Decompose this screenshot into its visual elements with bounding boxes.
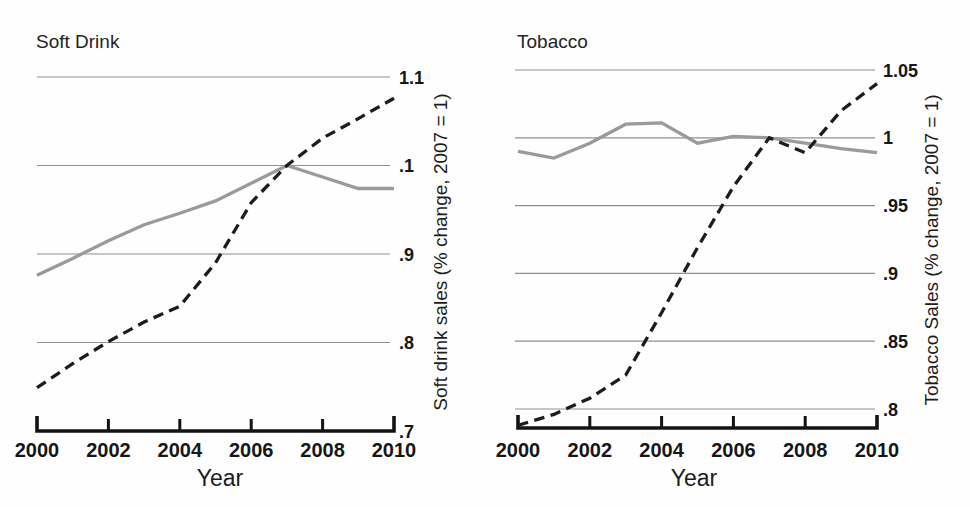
y-axis-label-tobacco: Tobacco Sales (% change, 2007 = 1): [921, 94, 942, 405]
y-tick-label: 1.1: [399, 68, 424, 88]
series-line-tobacco-dashed-black: [518, 84, 877, 426]
y-tick-label: 1.05: [883, 61, 918, 81]
series-line-comparison-solid-gray: [518, 123, 877, 158]
y-tick-label: .9: [399, 245, 414, 265]
y-tick-label: .85: [883, 332, 908, 352]
y-axis-label-soft-drink: Soft drink sales (% change, 2007 = 1): [430, 93, 451, 410]
x-axis-label-soft-drink: Year: [197, 465, 244, 491]
y-tick-label: .1: [399, 156, 414, 176]
x-tick-label: 2010: [855, 439, 900, 461]
y-tick-label: .8: [883, 400, 898, 420]
x-axis: [37, 416, 394, 431]
y-tick-label: 1: [883, 128, 893, 148]
plot-area-tobacco: 1.051.95.9.85.8200020022004200620082010: [496, 61, 918, 462]
x-axis-label-tobacco: Year: [671, 465, 718, 491]
x-tick-label: 2002: [86, 439, 131, 461]
chart-title-tobacco: Tobacco: [517, 31, 588, 52]
x-tick-label: 2002: [568, 439, 613, 461]
tobacco-chart: Tobacco Tobacco Sales (% change, 2007 = …: [485, 0, 970, 507]
y-tick-label: .95: [883, 196, 908, 216]
soft-drink-chart: Soft Drink Soft drink sales (% change, 2…: [0, 0, 485, 507]
x-tick-label: 2004: [158, 439, 203, 461]
x-tick-label: 2004: [639, 439, 684, 461]
x-tick-label: 2000: [15, 439, 60, 461]
chart-title-soft-drink: Soft Drink: [36, 31, 120, 52]
two-panel-line-figure: Soft Drink Soft drink sales (% change, 2…: [0, 0, 970, 507]
series-line-comparison-solid-gray: [37, 166, 394, 276]
plot-area-soft-drink: 1.1.1.9.8.7200020022004200620082010: [15, 68, 424, 462]
y-tick-label: .8: [399, 333, 414, 353]
x-tick-label: 2008: [300, 439, 345, 461]
x-tick-label: 2000: [496, 439, 541, 461]
x-tick-label: 2010: [372, 439, 417, 461]
x-tick-label: 2008: [783, 439, 828, 461]
y-tick-label: .9: [883, 264, 898, 284]
x-axis: [518, 415, 877, 428]
series-line-soft-drink-dashed-black: [37, 98, 394, 387]
x-tick-label: 2006: [229, 439, 274, 461]
x-tick-label: 2006: [711, 439, 756, 461]
